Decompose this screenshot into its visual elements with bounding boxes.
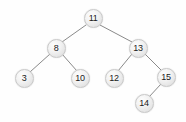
tree-node-10[interactable]: 10 xyxy=(71,69,90,88)
tree-node-label: 15 xyxy=(161,73,170,82)
tree-edge-n11-n13 xyxy=(100,25,132,42)
tree-node-label: 11 xyxy=(89,14,98,23)
tree-node-label: 14 xyxy=(139,99,148,108)
tree-node-11[interactable]: 11 xyxy=(84,9,103,28)
tree-node-label: 3 xyxy=(22,74,27,83)
tree-node-label: 12 xyxy=(109,74,118,83)
tree-node-3[interactable]: 3 xyxy=(15,69,34,88)
tree-edge-n13-n12 xyxy=(118,54,132,71)
tree-node-13[interactable]: 13 xyxy=(129,39,148,58)
tree-edge-n11-n8 xyxy=(62,25,86,42)
tree-node-14[interactable]: 14 xyxy=(135,94,154,113)
tree-node-label: 8 xyxy=(54,44,59,53)
tree-edge-n13-n15 xyxy=(145,54,161,70)
tree-node-label: 10 xyxy=(75,74,84,83)
tree-node-8[interactable]: 8 xyxy=(47,39,66,58)
binary-tree-diagram: 11813310121514 xyxy=(0,0,186,122)
tree-node-12[interactable]: 12 xyxy=(105,69,124,88)
tree-edge-n8-n3 xyxy=(30,54,50,72)
tree-node-label: 13 xyxy=(133,44,142,53)
tree-node-15[interactable]: 15 xyxy=(157,68,176,87)
tree-edge-n8-n10 xyxy=(62,54,77,71)
tree-edge-n15-n14 xyxy=(149,84,161,97)
